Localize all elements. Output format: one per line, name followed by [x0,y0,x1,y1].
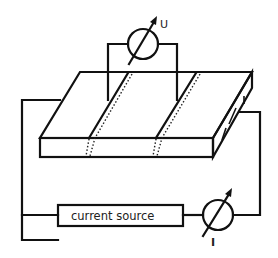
ammeter-label: I [211,236,215,249]
voltmeter: U [128,16,168,64]
ammeter-circle [203,200,233,230]
stripe-left-front-dotted [86,139,89,156]
ammeter-arrow-head-icon [225,188,232,197]
voltmeter-arrow-head-icon [150,16,157,25]
stripe-right-dotted [157,74,200,156]
slab-front-face [40,138,213,157]
current-source: current source [58,205,183,226]
stripe-left-dotted [90,74,132,156]
voltmeter-circle [128,29,158,59]
current-circuit: current source I [22,100,260,249]
wire-right [233,112,260,215]
current-source-label: current source [71,209,154,223]
wire-left [22,100,60,240]
stripes [86,73,200,156]
stripe-right-front-dotted [153,139,156,156]
four-probe-measurement-diagram: U current source I [0,0,278,258]
sample-slab [40,72,252,157]
voltmeter-label: U [160,18,168,31]
ammeter: I [203,188,233,249]
slab-top-face [40,72,252,138]
